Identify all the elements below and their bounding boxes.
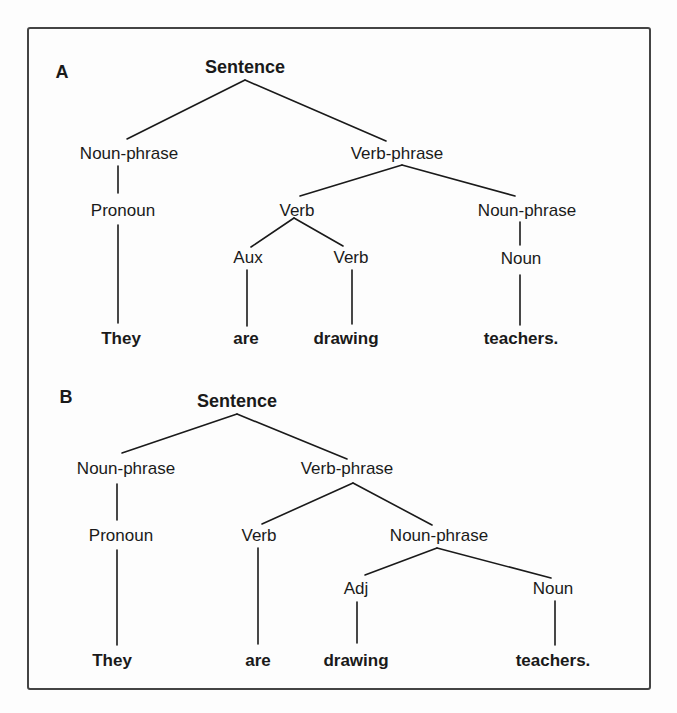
word-b-they: They xyxy=(92,652,132,669)
node-b-pronoun: Pronoun xyxy=(89,527,153,544)
edge-b-vp-np2 xyxy=(353,483,432,525)
edge-b-np2-noun xyxy=(437,548,551,578)
edge-a-sentence-np xyxy=(127,80,245,139)
edge-b-np2-adj xyxy=(365,548,437,575)
edge-a-verb-verb xyxy=(294,218,343,246)
node-b-noun-phrase-2: Noun-phrase xyxy=(390,527,488,544)
word-a-teachers: teachers. xyxy=(484,330,559,347)
node-a-verb: Verb xyxy=(334,249,369,266)
node-b-noun: Noun xyxy=(533,580,574,597)
node-a-noun: Noun xyxy=(501,250,542,267)
node-a-noun-phrase-2: Noun-phrase xyxy=(478,202,576,219)
node-a-verb-group: Verb xyxy=(280,202,315,219)
node-a-aux: Aux xyxy=(233,249,262,266)
word-b-drawing: drawing xyxy=(323,652,388,669)
word-a-drawing: drawing xyxy=(313,330,378,347)
edge-a-vp-verb xyxy=(300,165,402,196)
node-a-sentence: Sentence xyxy=(205,58,285,76)
panel-label-b: B xyxy=(60,387,73,408)
tree-edges xyxy=(0,0,677,713)
node-a-verb-phrase: Verb-phrase xyxy=(351,145,444,162)
node-a-noun-phrase: Noun-phrase xyxy=(80,145,178,162)
edge-a-verb-aux xyxy=(251,218,294,247)
edge-a-vp-np2 xyxy=(402,165,515,196)
edge-b-sentence-vp xyxy=(237,414,347,459)
word-a-they: They xyxy=(101,330,141,347)
node-a-pronoun: Pronoun xyxy=(91,202,155,219)
node-b-adj: Adj xyxy=(344,580,369,597)
edge-a-sentence-vp xyxy=(245,80,386,141)
edge-b-sentence-np xyxy=(122,414,237,453)
node-b-sentence: Sentence xyxy=(197,392,277,410)
panel-label-a: A xyxy=(56,62,69,83)
node-b-verb-phrase: Verb-phrase xyxy=(301,460,394,477)
word-a-are: are xyxy=(233,330,259,347)
edge-b-vp-verb xyxy=(262,483,353,524)
word-b-teachers: teachers. xyxy=(516,652,591,669)
node-b-noun-phrase: Noun-phrase xyxy=(77,460,175,477)
node-b-verb: Verb xyxy=(242,527,277,544)
word-b-are: are xyxy=(245,652,271,669)
